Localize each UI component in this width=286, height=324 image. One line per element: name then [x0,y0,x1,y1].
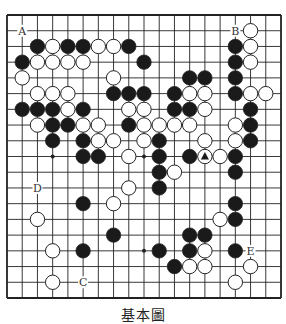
white-stone [152,118,166,132]
black-stone [152,165,166,179]
point-label-a: A [17,25,27,38]
white-stone [213,212,227,226]
white-stone [137,134,151,148]
white-stone [243,24,257,38]
white-stone [167,165,181,179]
white-stone [243,259,257,273]
point-label-c: C [79,276,87,289]
black-stone [45,134,59,148]
black-stone [122,39,136,53]
white-stone [167,118,181,132]
white-stone [45,39,59,53]
black-stone [152,244,166,258]
black-stone [228,149,242,163]
white-stone [198,259,212,273]
white-stone [76,55,90,69]
black-stone [228,244,242,258]
white-stone [61,86,75,100]
black-stone [228,165,242,179]
white-stone [182,118,196,132]
black-stone [228,55,242,69]
white-stone [30,55,44,69]
black-stone [228,39,242,53]
white-stone [243,86,257,100]
black-stone [76,39,90,53]
white-stone [182,86,196,100]
black-stone [91,149,105,163]
white-stone [228,118,242,132]
black-stone [61,39,75,53]
black-stone [137,86,151,100]
diagram-caption: 基本圖 [0,304,286,324]
black-stone [45,102,59,116]
white-stone [106,134,120,148]
white-stone [122,149,136,163]
white-stone [61,102,75,116]
black-stone [61,118,75,132]
white-stone [122,181,136,195]
white-stone [45,244,59,258]
white-stone [137,118,151,132]
black-stone [167,86,181,100]
white-stone [30,118,44,132]
black-stone [182,102,196,116]
white-stone [228,134,242,148]
black-stone [15,102,29,116]
black-stone [106,228,120,242]
black-stone [228,212,242,226]
white-stone [198,102,212,116]
black-stone [152,149,166,163]
white-stone [243,55,257,69]
black-stone [167,102,181,116]
black-stone [243,118,257,132]
black-stone [228,71,242,85]
star-point [51,155,55,159]
white-stone [76,118,90,132]
black-stone [167,259,181,273]
black-stone [45,118,59,132]
black-stone [137,55,151,69]
point-label-d: D [33,182,42,195]
black-stone [182,244,196,258]
white-stone [259,86,273,100]
black-stone [122,86,136,100]
white-stone [106,196,120,210]
star-point [142,249,146,253]
star-point [142,155,146,159]
black-stone [182,71,196,85]
black-stone [76,134,90,148]
black-stone [152,134,166,148]
white-stone [30,86,44,100]
black-stone [106,86,120,100]
black-stone [198,228,212,242]
white-stone [198,244,212,258]
point-label-e: E [247,245,255,258]
black-stone [122,118,136,132]
black-stone [198,71,212,85]
white-stone [61,55,75,69]
white-stone [91,118,105,132]
white-stone [182,259,196,273]
point-label-b: B [231,25,239,38]
white-stone [137,102,151,116]
black-stone [76,102,90,116]
white-stone [45,55,59,69]
white-stone [198,86,212,100]
black-stone [76,196,90,210]
white-stone [228,275,242,289]
white-stone [45,275,59,289]
white-stone [91,39,105,53]
white-stone [122,102,136,116]
white-stone [106,71,120,85]
black-stone [243,134,257,148]
white-stone [198,134,212,148]
white-stone [15,71,29,85]
black-stone [76,244,90,258]
white-stone [213,149,227,163]
white-stone [30,212,44,226]
white-stone [45,86,59,100]
white-stone [243,39,257,53]
black-stone [15,55,29,69]
